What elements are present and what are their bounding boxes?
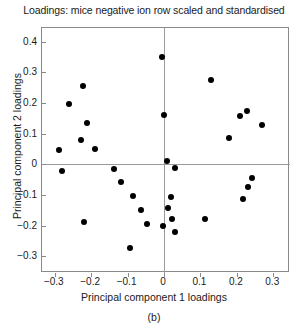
y-tick-mark [42,226,46,227]
data-point [208,77,214,83]
zero-reference-line-horizontal [42,164,290,165]
data-point [245,184,251,190]
data-point [127,245,133,251]
data-point [56,147,62,153]
data-point [160,223,166,229]
y-tick-label: 0.1 [23,127,37,138]
x-tick-label: −0.1 [117,276,137,287]
data-point [172,165,178,171]
figure-caption: (b) [0,311,308,323]
y-tick-mark [42,42,46,43]
x-tick-label: −0.2 [80,276,100,287]
data-point [226,135,232,141]
y-tick-mark [42,103,46,104]
plot-area [41,27,289,272]
y-tick-label: 0.3 [23,66,37,77]
data-point [92,146,98,152]
data-point [66,101,72,107]
data-point [78,137,84,143]
data-point [161,112,167,118]
data-point [237,113,243,119]
data-point [165,205,171,211]
y-tick-mark [42,134,46,135]
data-point [144,221,150,227]
data-point [240,196,246,202]
y-tick-mark [42,72,46,73]
y-tick-mark [42,256,46,257]
x-axis-title: Principal component 1 loadings [0,291,308,303]
y-tick-mark [42,164,46,165]
data-point [169,216,175,222]
y-tick-mark [42,195,46,196]
y-tick-label: 0 [31,158,37,169]
y-tick-label: 0.2 [23,97,37,108]
data-point [249,175,255,181]
data-point [118,179,124,185]
data-point [168,194,174,200]
x-tick-label: 0 [160,276,166,287]
data-point [244,108,250,114]
data-point [80,83,86,89]
x-tick-label: 0.2 [229,276,243,287]
x-tick-label: −0.3 [44,276,64,287]
x-tick-label: 0.3 [265,276,279,287]
data-point [172,229,178,235]
data-point [130,193,136,199]
zero-reference-line-vertical [164,28,165,273]
data-point [111,166,117,172]
data-point [59,168,65,174]
data-point [84,120,90,126]
data-point [202,216,208,222]
y-tick-label: 0.4 [23,35,37,46]
data-point [81,219,87,225]
data-point [138,207,144,213]
y-axis-title: Principal component 2 loadings [11,22,23,270]
x-tick-label: 0.1 [192,276,206,287]
chart-title: Loadings: mice negative ion row scaled a… [0,4,308,16]
data-point [259,122,265,128]
scatter-plot-figure: Loadings: mice negative ion row scaled a… [0,0,308,332]
